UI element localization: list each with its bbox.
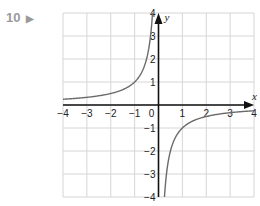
function-graph: xy−4−3−2−1012344321−1−2−3−4 xyxy=(0,0,260,206)
y-tick-label: 2 xyxy=(150,54,156,65)
x-tick-label: −2 xyxy=(105,108,117,119)
x-tick-label: 1 xyxy=(180,108,186,119)
y-tick-label: −3 xyxy=(144,169,156,180)
y-tick-label: 1 xyxy=(150,77,156,88)
x-tick-label: 0 xyxy=(149,108,155,119)
curve-right-branch xyxy=(164,111,254,197)
x-tick-label: −4 xyxy=(57,108,69,119)
x-tick-label: −1 xyxy=(129,108,141,119)
y-tick-label: −1 xyxy=(144,123,156,134)
y-axis-arrow-icon xyxy=(155,13,163,24)
x-tick-label: −3 xyxy=(81,108,93,119)
x-tick-label: 4 xyxy=(251,108,257,119)
x-axis-label: x xyxy=(251,90,257,102)
y-axis-label: y xyxy=(164,11,170,23)
curve-left-branch xyxy=(63,13,153,99)
y-tick-label: −2 xyxy=(144,146,156,157)
y-tick-label: −4 xyxy=(144,192,156,203)
